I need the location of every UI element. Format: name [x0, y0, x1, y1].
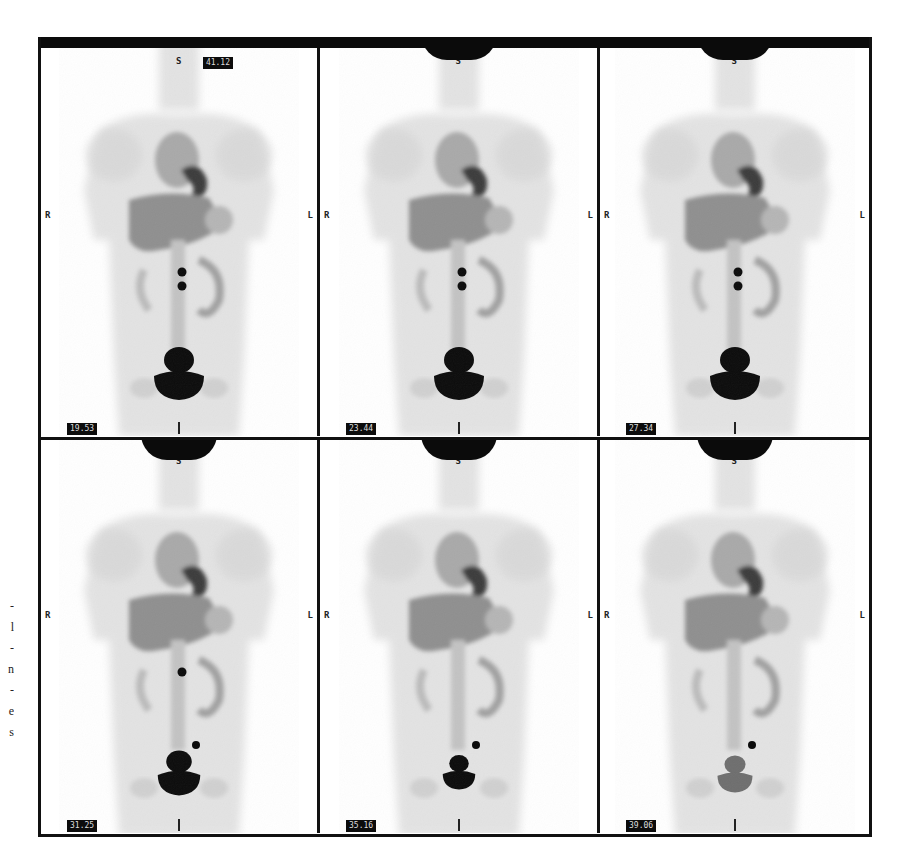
- orientation-marker-left: R: [324, 210, 329, 220]
- orientation-tick-bottom: [458, 422, 460, 434]
- orientation-tick-bottom: [178, 422, 180, 434]
- orientation-tick-bottom: [458, 819, 460, 831]
- coronal-body-image: [615, 40, 855, 436]
- pet-frame-5: SRL35.16: [317, 437, 597, 833]
- caption-char: s: [0, 722, 14, 743]
- orientation-marker-right: L: [588, 210, 593, 220]
- orientation-marker-left: R: [604, 610, 609, 620]
- caption-char: -: [0, 680, 14, 701]
- orientation-marker-left: R: [604, 210, 609, 220]
- orientation-marker-right: L: [860, 210, 865, 220]
- pet-frame-4: SRL31.25: [41, 437, 317, 833]
- orientation-tick-bottom: [734, 819, 736, 831]
- orientation-marker-left: R: [45, 610, 50, 620]
- orientation-tick-bottom: [178, 819, 180, 831]
- orientation-marker-left: R: [45, 210, 50, 220]
- coronal-body-image: [59, 40, 299, 436]
- pet-frame-6: SRL39.06: [597, 437, 869, 833]
- caption-char: -: [0, 596, 14, 617]
- orientation-marker-right: L: [308, 210, 313, 220]
- coronal-body-image: [615, 440, 855, 833]
- orientation-marker-left: R: [324, 610, 329, 620]
- caption-char: n: [0, 659, 14, 680]
- pet-image-grid: SRL19.5341.12: [38, 37, 872, 837]
- coronal-body-image: [59, 440, 299, 833]
- orientation-marker-right: L: [588, 610, 593, 620]
- caption-char: -: [0, 638, 14, 659]
- frame-time-label: 39.06: [626, 820, 656, 832]
- orientation-tick-bottom: [734, 422, 736, 434]
- frame-top-label: 41.12: [203, 57, 233, 69]
- coronal-body-image: [339, 40, 579, 436]
- caption-char: l: [0, 617, 14, 638]
- coronal-body-image: [339, 440, 579, 833]
- pet-frame-2: SRL23.44: [317, 40, 597, 436]
- orientation-marker-top: S: [176, 56, 181, 66]
- pet-frame-3: SRL27.34: [597, 40, 869, 436]
- caption-char: e: [0, 701, 14, 722]
- frame-time-label: 19.53: [67, 423, 97, 435]
- frame-time-label: 27.34: [626, 423, 656, 435]
- pet-frame-1: SRL19.5341.12: [41, 40, 317, 436]
- frame-time-label: 23.44: [346, 423, 376, 435]
- frame-time-label: 35.16: [346, 820, 376, 832]
- cropped-caption-fragment: - l - n - e s: [0, 596, 14, 743]
- orientation-marker-right: L: [308, 610, 313, 620]
- orientation-marker-right: L: [860, 610, 865, 620]
- frame-time-label: 31.25: [67, 820, 97, 832]
